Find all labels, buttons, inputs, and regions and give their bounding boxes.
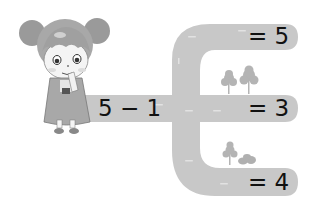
math-road-puzzle: 5 − 1 = 5 = 3 = 4: [0, 0, 320, 214]
bush-icon: [238, 154, 256, 165]
tree-icon: [221, 70, 237, 94]
tree-icon: [223, 142, 238, 166]
branch-answer-bottom: = 4: [248, 171, 289, 194]
start-expression: 5 − 1: [98, 97, 161, 120]
branch-answer-middle: = 3: [248, 97, 289, 120]
tree-icon: [240, 66, 259, 95]
branch-answer-top: = 5: [248, 25, 289, 48]
